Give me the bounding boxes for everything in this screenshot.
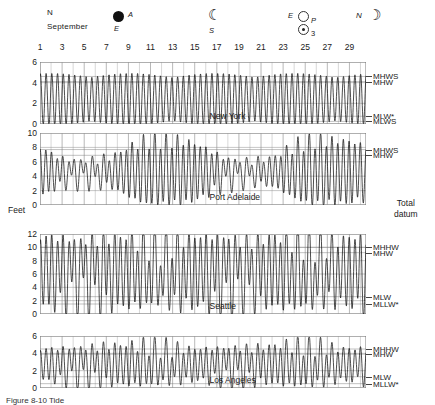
datum-tick-MLW	[366, 377, 372, 378]
ytick-port-adelaide-0: 0	[32, 200, 37, 210]
moon-phase-row: N September A E ☾ S E P 3 N ☽	[0, 0, 435, 46]
datum-tick-MLW	[366, 297, 372, 298]
right-axis-title-line1: Total	[394, 198, 418, 209]
datum-tick-MLWS	[366, 121, 372, 122]
date-tick-21: 21	[256, 42, 265, 52]
ytick-seattle-4: 4	[32, 282, 37, 292]
datum-tick-MHW	[366, 155, 372, 156]
date-tick-1: 1	[38, 42, 43, 52]
ytick-port-adelaide-2: 2	[32, 186, 37, 196]
date-tick-19: 19	[234, 42, 243, 52]
ytick-seattle-10: 10	[28, 242, 37, 252]
datum-tick-MHWS	[366, 150, 372, 151]
ytick-seattle-2: 2	[32, 296, 37, 306]
datum-tick-MHW	[366, 354, 372, 355]
phase-label-E-2: E	[288, 11, 293, 20]
new-moon-icon	[113, 11, 124, 22]
date-tick-17: 17	[212, 42, 221, 52]
panel-title-port-adelaide: Port Adelaide	[210, 192, 261, 202]
tide-curve-new-york	[40, 73, 366, 123]
date-tick-13: 13	[168, 42, 177, 52]
ytick-port-adelaide-4: 4	[32, 171, 37, 181]
date-tick-29: 29	[345, 42, 354, 52]
ytick-seattle-12: 12	[28, 229, 37, 239]
panel-title-new-york: New York	[210, 111, 246, 121]
ytick-port-adelaide-6: 6	[32, 157, 37, 167]
datum-label-MLWS: MLWS	[373, 117, 396, 126]
date-tick-11: 11	[146, 42, 155, 52]
datum-label-MHW: MHW	[373, 350, 393, 359]
phase-label-N-2: N	[356, 11, 362, 20]
phase-label-3: 3	[311, 29, 315, 38]
datum-tick-MHHW	[366, 247, 372, 248]
ytick-seattle-6: 6	[32, 269, 37, 279]
phase-label-S: S	[209, 26, 214, 35]
figure-caption: Figure 8-10 Tide	[6, 396, 64, 405]
datum-label-MHW: MHW	[373, 248, 393, 257]
tide-plot-seattle	[40, 234, 366, 314]
datum-label-MHW: MHW	[373, 151, 393, 160]
datum-tick-MHWS	[366, 76, 372, 77]
ytick-seattle-0: 0	[32, 309, 37, 319]
first-quarter-icon: ☾	[208, 9, 221, 20]
phase-label-A: A	[128, 10, 133, 19]
tide-curve-seattle	[40, 235, 366, 314]
datum-label-MHW: MHW	[373, 77, 393, 86]
date-tick-3: 3	[60, 42, 65, 52]
ytick-los-angeles-0: 0	[32, 383, 37, 393]
ytick-port-adelaide-8: 8	[32, 142, 37, 152]
datum-tick-MLLWstar	[366, 304, 372, 305]
tide-plot-los-angeles	[40, 336, 366, 388]
date-tick-15: 15	[190, 42, 199, 52]
date-tick-23: 23	[278, 42, 287, 52]
datum-tick-MHW	[366, 82, 372, 83]
phase-label-P: P	[311, 16, 316, 25]
ytick-los-angeles-2: 2	[32, 366, 37, 376]
right-axis-title-line2: datum	[394, 209, 418, 220]
datum-tick-MLWstar	[366, 116, 372, 117]
datum-tick-MHW	[366, 253, 372, 254]
ytick-los-angeles-6: 6	[32, 331, 37, 341]
month-label: September	[47, 22, 88, 31]
panel-title-seattle: Seattle	[210, 301, 236, 311]
date-axis: 1357911131517192123252729	[40, 42, 366, 55]
right-axis-title: Total datum	[394, 198, 418, 220]
ytick-port-adelaide-10: 10	[28, 128, 37, 138]
tide-panel-los-angeles: 0246MHHWMHWMLWMLLW*Los Angeles	[40, 336, 366, 388]
tide-panel-new-york: 0246MHWSMHWMLW*MLWSNew York	[40, 62, 366, 124]
panel-title-los-angeles: Los Angeles	[210, 375, 256, 385]
date-tick-7: 7	[104, 42, 109, 52]
tide-curve-port-adelaide	[40, 134, 366, 205]
ytick-los-angeles-4: 4	[32, 348, 37, 358]
datum-label-MLLWstar: MLLW*	[373, 300, 399, 309]
ytick-new-york-2: 2	[32, 98, 37, 108]
ytick-seattle-8: 8	[32, 256, 37, 266]
tide-panel-port-adelaide: 0246810MHWSMHWPort Adelaide	[40, 133, 366, 205]
full-moon-icon	[298, 11, 309, 22]
sun-icon	[298, 24, 309, 35]
phase-label-E-1: E	[114, 24, 119, 33]
y-axis-title: Feet	[8, 205, 25, 215]
last-quarter-icon: ☽	[368, 9, 381, 20]
date-tick-25: 25	[300, 42, 309, 52]
date-tick-9: 9	[126, 42, 131, 52]
datum-tick-MLLWstar	[366, 384, 372, 385]
tide-curve-los-angeles	[40, 337, 366, 387]
date-tick-5: 5	[82, 42, 87, 52]
ytick-new-york-6: 6	[32, 57, 37, 67]
phase-label-N-1: N	[47, 8, 53, 17]
datum-label-MLLWstar: MLLW*	[373, 379, 399, 388]
ytick-new-york-4: 4	[32, 78, 37, 88]
datum-tick-MHHW	[366, 349, 372, 350]
tide-panel-seattle: 024681012MHHWMHWMLWMLLW*Seattle	[40, 234, 366, 314]
date-tick-27: 27	[323, 42, 332, 52]
tide-plot-port-adelaide	[40, 133, 366, 205]
tide-plot-new-york	[40, 62, 366, 124]
